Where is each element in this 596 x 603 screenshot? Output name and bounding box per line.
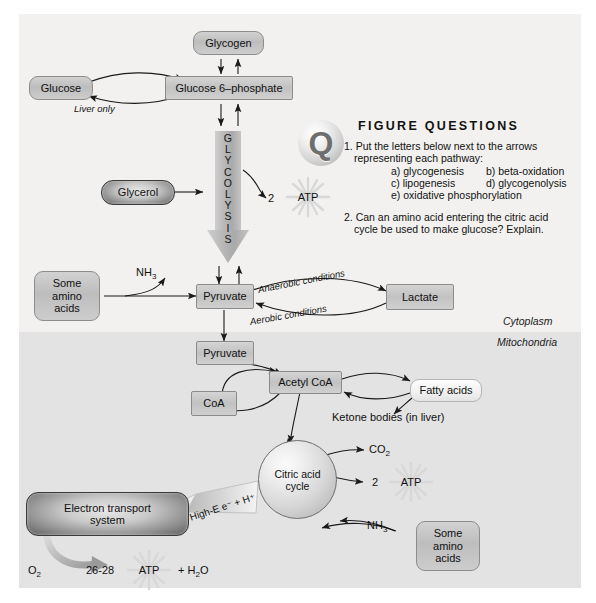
question-2-line-2: cycle be used to make glucose? Explain. <box>354 223 544 236</box>
citric-acid-cycle-label: Citric acid cycle <box>274 468 320 492</box>
o2-text: O <box>28 564 37 576</box>
amino-acids-bottom-label: Some amino acids <box>433 527 463 565</box>
electron-transport-label: Electron transport system <box>64 502 151 527</box>
atp-glycolysis-burst: ATP <box>281 176 335 218</box>
question-1-line-2: representing each pathway: <box>354 152 483 165</box>
water-text: + H <box>178 564 195 576</box>
node-glucose-6-phosphate[interactable]: Glucose 6–phosphate <box>165 76 293 100</box>
label-nh3-bottom: NH3 <box>367 519 387 534</box>
label-co2: CO2 <box>369 443 390 458</box>
question-badge-icon: Q <box>298 120 344 166</box>
atp-cycle-burst: ATP <box>384 461 438 503</box>
node-electron-transport-system[interactable]: Electron transport system <box>26 492 189 536</box>
label-cytoplasm: Cytoplasm <box>503 315 553 327</box>
figure-canvas: Glycogen Glucose Glucose 6–phosphate Gly… <box>0 0 596 603</box>
atp-cycle-label: ATP <box>401 476 422 488</box>
node-acetyl-coa[interactable]: Acetyl CoA <box>269 371 342 394</box>
label-nh3-top: NH3 <box>136 266 156 281</box>
nh3-top-text: NH <box>136 266 152 278</box>
node-glycerol[interactable]: Glycerol <box>101 180 175 205</box>
glycolysis-letters: G L Y C O L Y S I S <box>207 133 249 245</box>
o2-subscript: 2 <box>37 570 41 579</box>
label-mitochondria: Mitochondria <box>497 336 557 348</box>
atp-ets-burst: ATP <box>122 549 176 591</box>
node-some-amino-acids-top[interactable]: Some amino acids <box>34 271 100 321</box>
question-option-a: a) glycogenesis <box>391 165 464 178</box>
label-ketone-bodies: Ketone bodies (in liver) <box>332 411 445 423</box>
label-o2: O2 <box>28 564 41 579</box>
question-option-e: e) oxidative phosphorylation <box>391 189 522 202</box>
glycolysis-arrow: G L Y C O L Y S I S <box>207 131 249 263</box>
question-option-c: c) lipogenesis <box>391 177 455 190</box>
node-pyruvate-cytoplasm[interactable]: Pyruvate <box>196 284 254 309</box>
node-pyruvate-mitochondria[interactable]: Pyruvate <box>196 341 254 365</box>
node-coa[interactable]: CoA <box>191 391 237 416</box>
atp-glycolysis-count: 2 <box>268 192 274 204</box>
glycolysis-letter: Y <box>224 155 231 166</box>
label-liver-only: Liver only <box>74 103 115 114</box>
node-fatty-acids[interactable]: Fatty acids <box>410 379 482 402</box>
atp-cycle-count: 2 <box>372 476 378 488</box>
glycolysis-letter: S <box>224 211 231 222</box>
question-option-d: d) glycogenolysis <box>486 177 567 190</box>
node-glucose[interactable]: Glucose <box>29 76 93 100</box>
glycolysis-letter: S <box>224 234 231 245</box>
nh3-bottom-subscript: 3 <box>383 525 387 534</box>
node-some-amino-acids-bottom[interactable]: Some amino acids <box>416 521 480 571</box>
question-1-line-1: 1. Put the letters below next to the arr… <box>344 140 537 153</box>
atp-ets-label: ATP <box>139 564 160 576</box>
nh3-top-subscript: 3 <box>152 272 156 281</box>
node-citric-acid-cycle[interactable]: Citric acid cycle <box>258 440 337 519</box>
atp-ets-count: 26-28 <box>86 564 114 576</box>
question-option-b: b) beta-oxidation <box>486 165 564 178</box>
label-water: + H2O <box>178 564 208 579</box>
node-lactate[interactable]: Lactate <box>386 284 454 310</box>
node-glycogen[interactable]: Glycogen <box>193 31 264 55</box>
figure-questions-title: FIGURE QUESTIONS <box>358 119 519 133</box>
atp-glycolysis-label: ATP <box>298 191 319 203</box>
co2-subscript: 2 <box>386 449 390 458</box>
water-tail: O <box>200 564 209 576</box>
amino-acids-top-label: Some amino acids <box>52 277 82 315</box>
question-2-line-1: 2. Can an amino acid entering the citric… <box>344 211 548 224</box>
co2-text: CO <box>369 443 386 455</box>
nh3-bottom-text: NH <box>367 519 383 531</box>
